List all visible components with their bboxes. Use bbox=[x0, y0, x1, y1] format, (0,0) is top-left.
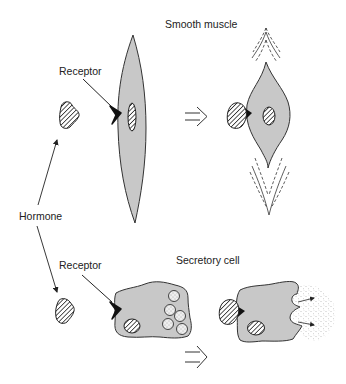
hormone-receptor-diagram: Smooth muscle Receptor bbox=[0, 0, 346, 384]
smooth-muscle-label: Smooth muscle bbox=[165, 18, 238, 30]
smooth-muscle-nucleus bbox=[128, 103, 136, 131]
receptor-label-bottom: Receptor bbox=[59, 259, 102, 271]
transition-arrow-top bbox=[185, 107, 207, 126]
transition-arrow-bottom bbox=[185, 346, 207, 368]
receptor-pointer-bottom bbox=[82, 275, 112, 302]
hormone-label: Hormone bbox=[19, 210, 62, 222]
receptor-pointer-top bbox=[83, 79, 113, 108]
secretory-cell-nucleus-after bbox=[248, 321, 265, 335]
secreted-product bbox=[292, 285, 335, 341]
hormone-molecule-top-bound bbox=[227, 103, 246, 129]
diagram-canvas: Smooth muscle Receptor bbox=[0, 0, 346, 384]
secretory-cell-label: Secretory cell bbox=[176, 254, 240, 266]
receptor-label-top: Receptor bbox=[59, 65, 102, 77]
hormone-molecule-top-free bbox=[60, 102, 80, 129]
hormone-arrow-down bbox=[37, 226, 57, 292]
hormone-arrow-up bbox=[38, 140, 57, 205]
hormone-molecule-bottom-bound bbox=[219, 300, 239, 325]
hormone-molecule-bottom-free bbox=[56, 299, 75, 324]
secretory-cell-after bbox=[236, 281, 302, 342]
secretory-cell-nucleus-before bbox=[124, 319, 140, 333]
contracted-cell-nucleus bbox=[263, 107, 275, 125]
